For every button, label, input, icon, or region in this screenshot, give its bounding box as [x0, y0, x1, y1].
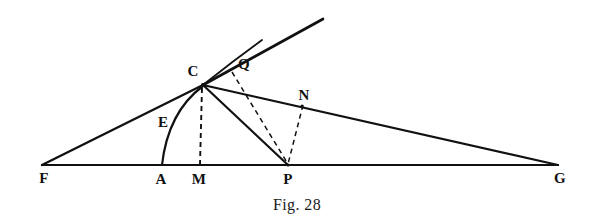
segment-line-CP — [203, 85, 288, 165]
vertex-label-M: M — [192, 172, 206, 187]
segment-line-QP — [232, 72, 288, 164]
vertex-label-C: C — [187, 64, 198, 79]
segment-line-NP — [288, 105, 303, 164]
ray-tangent-upper — [203, 19, 323, 85]
segment-line-CG — [203, 85, 558, 165]
figure-container: F A M P G C E Q N Fig. 28 — [0, 0, 594, 224]
segment-line-FC — [42, 85, 203, 165]
geometry-diagram — [0, 0, 594, 224]
ray-curve-upper — [203, 40, 262, 85]
vertex-node-N — [301, 105, 304, 108]
figure-caption: Fig. 28 — [0, 196, 594, 214]
vertex-node-P — [286, 163, 289, 166]
vertex-label-P: P — [283, 172, 292, 187]
vertex-label-F: F — [39, 171, 48, 186]
vertex-label-Q: Q — [238, 57, 250, 72]
vertex-label-E: E — [158, 115, 168, 130]
segment-line-CM — [200, 88, 202, 164]
vertex-label-G: G — [554, 171, 566, 186]
vertex-label-A: A — [155, 172, 166, 187]
vertex-label-N: N — [298, 88, 309, 103]
vertex-node-C — [201, 83, 205, 87]
arc-ACE — [162, 86, 203, 165]
